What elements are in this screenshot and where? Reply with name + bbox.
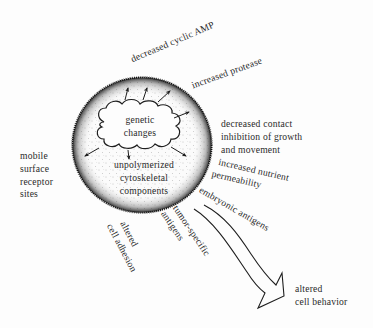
decreased-contact-inhibition-label: decreased contact inhibition of growth a… (221, 118, 302, 156)
cytoskeletal-label: unpolymerized cytoskeletal components (104, 159, 184, 197)
cloud-line-1: genetic (118, 114, 162, 127)
mobile-receptor-sites-label: mobile surface receptor sites (20, 150, 53, 201)
receptor-line-4: sites (20, 188, 53, 201)
interior-line-2: cytoskeletal (104, 172, 184, 185)
genetic-changes-label: genetic changes (118, 114, 162, 140)
interior-line-1: unpolymerized (104, 159, 184, 172)
contact-line-2: inhibition of growth (221, 131, 302, 144)
receptor-line-1: mobile (20, 150, 53, 163)
outcome-line-2: cell behavior (295, 296, 347, 309)
altered-cell-behavior-label: altered cell behavior (295, 283, 347, 309)
cloud-line-2: changes (118, 127, 162, 140)
receptor-line-2: surface (20, 163, 53, 176)
altered-behavior-arrow-icon (194, 205, 284, 308)
contact-line-1: decreased contact (221, 118, 302, 131)
diagram-canvas: genetic changes unpolymerized cytoskelet… (0, 0, 373, 328)
receptor-line-3: receptor (20, 176, 53, 189)
interior-line-3: components (104, 185, 184, 198)
diagram-graphics (0, 0, 373, 328)
outcome-line-1: altered (295, 283, 347, 296)
contact-line-3: and movement (221, 144, 302, 157)
